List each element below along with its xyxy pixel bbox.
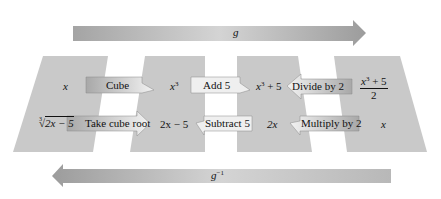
step-take-cube-root-label: Take cube root bbox=[85, 118, 150, 129]
panel-2-top-expr: x3 bbox=[170, 81, 178, 92]
panel-3-bottom-expr: 2x bbox=[267, 119, 277, 130]
step-cube-label: Cube bbox=[106, 80, 129, 91]
step-subtract-5-label: Subtract 5 bbox=[205, 118, 250, 129]
panel-1-bottom-expr: 3√2x − 5 bbox=[39, 118, 74, 129]
forward-arrow bbox=[73, 20, 366, 46]
panel-3 bbox=[237, 56, 312, 152]
panel-3-top-expr: x3 + 5 bbox=[256, 81, 282, 92]
panel-4 bbox=[334, 56, 427, 152]
inverse-arrow-label: g−1 bbox=[211, 170, 224, 181]
radicand: 2x − 5 bbox=[45, 116, 74, 129]
panel-2-bottom-expr: 2x − 5 bbox=[160, 119, 188, 130]
panel-1 bbox=[13, 56, 108, 152]
step-multiply-by-2-label: Multiply by 2 bbox=[301, 118, 362, 129]
step-divide-by-2-label: Divide by 2 bbox=[292, 81, 344, 92]
step-add-5-label: Add 5 bbox=[203, 80, 230, 91]
panel-2 bbox=[130, 56, 205, 152]
panel-1-top-expr: x bbox=[63, 81, 68, 92]
inverse-arrow-label-sup: −1 bbox=[217, 169, 224, 177]
forward-arrow-label: g bbox=[233, 27, 239, 38]
panel-4-bottom-expr: x bbox=[381, 119, 386, 130]
fraction-numerator: x3 + 5 bbox=[360, 76, 388, 89]
fraction-denominator: 2 bbox=[360, 89, 388, 101]
panel-4-top-expr: x3 + 5 2 bbox=[360, 76, 388, 101]
